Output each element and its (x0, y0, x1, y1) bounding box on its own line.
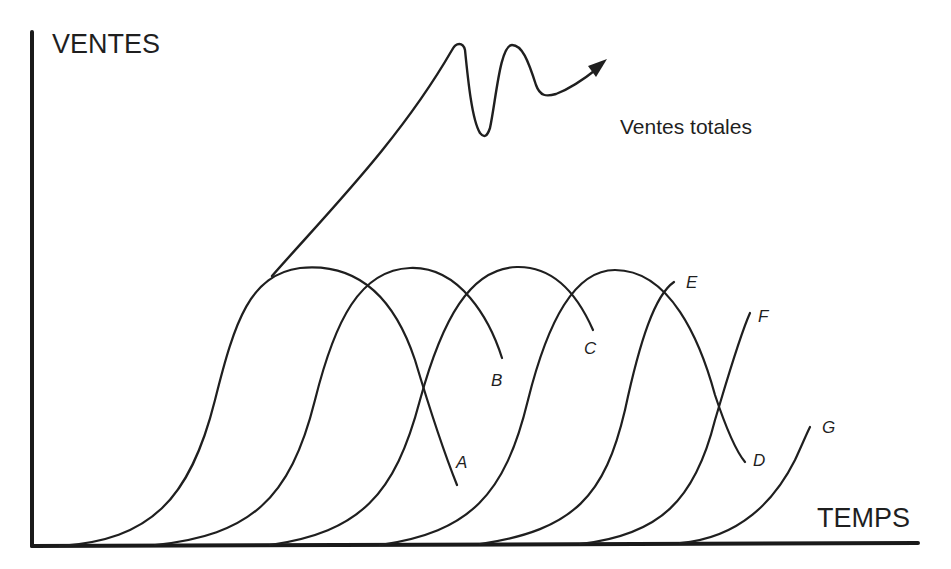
curve-c (270, 267, 593, 545)
curve-d (380, 270, 745, 545)
curve-label-e: E (686, 273, 698, 292)
curve-label-b: B (491, 371, 502, 390)
x-axis-label: TEMPS (817, 503, 910, 533)
curve-label-f: F (758, 307, 770, 326)
curve-label-a: A (455, 453, 467, 472)
curve-a (60, 267, 457, 546)
curve-g (680, 427, 810, 543)
y-axis-label: VENTES (52, 29, 160, 59)
curve-e (480, 282, 674, 544)
curve-b (155, 268, 502, 545)
total-sales-label: Ventes totales (620, 115, 752, 138)
total-sales-curve (272, 44, 598, 276)
curve-f (580, 313, 750, 544)
curve-label-c: C (584, 339, 597, 358)
curve-label-g: G (822, 418, 835, 437)
curve-label-d: D (753, 451, 765, 470)
product-life-cycle-diagram: VENTES TEMPS Ventes totales A B C D E F … (0, 0, 951, 569)
